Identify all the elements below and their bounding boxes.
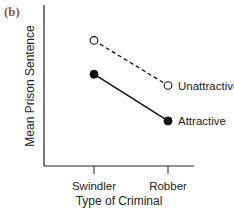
x-tick-label-robber: Robber [149, 180, 187, 192]
series-line-attractive [94, 74, 168, 121]
x-axis-title: Type of Criminal [76, 194, 163, 208]
data-point-unattractive-robber [164, 82, 172, 90]
data-point-attractive-robber [164, 117, 172, 125]
legend-label-attractive: Attractive [178, 115, 226, 127]
data-point-unattractive-swindler [90, 37, 98, 45]
data-point-attractive-swindler [90, 70, 98, 78]
series-line-unattractive [94, 40, 168, 85]
x-tick-label-swindler: Swindler [72, 180, 116, 192]
panel-label: (b) [4, 4, 20, 19]
legend-label-unattractive: Unattractive [178, 80, 234, 92]
y-axis-title: Mean Prison Sentence [23, 25, 37, 147]
chart: (b) Swindler Robber Type of Criminal Mea… [0, 0, 234, 208]
